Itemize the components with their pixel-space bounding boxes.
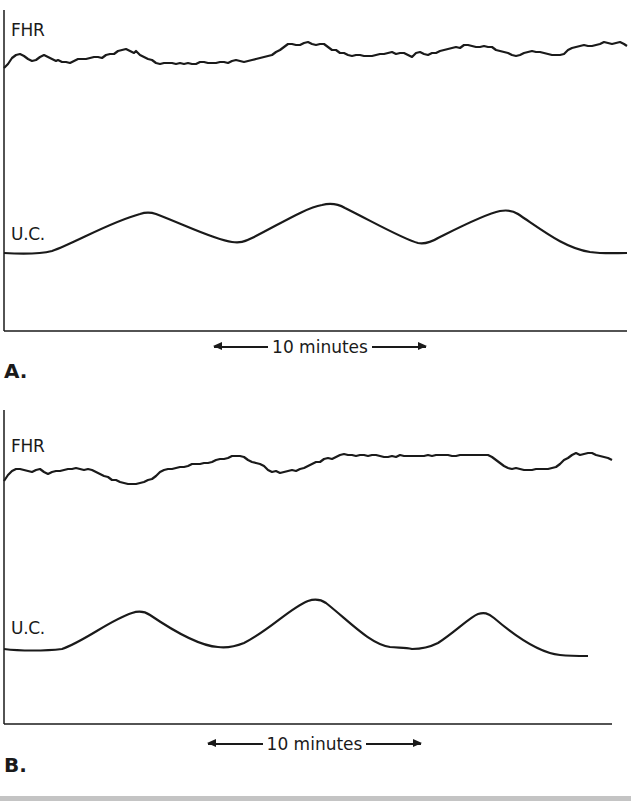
left-arrow-icon [214, 346, 268, 348]
right-arrow-icon [366, 743, 421, 745]
panel-a-fhr-trace [4, 42, 627, 68]
panel-a-scale-label: 10 minutes [268, 337, 372, 357]
panel-b-time-scale: 10 minutes [208, 734, 421, 754]
panel-b-letter: B. [4, 753, 27, 777]
panel-a-fhr-label: FHR [11, 20, 44, 40]
panel-a-time-scale: 10 minutes [214, 337, 426, 357]
panel-a-letter: A. [4, 359, 27, 383]
panel-a-axes [4, 10, 627, 331]
panel-b-uc-trace [4, 600, 588, 656]
panel-b-fhr-trace [4, 453, 612, 484]
panel-a-uc-trace [4, 204, 627, 254]
left-arrow-icon [208, 743, 263, 745]
panel-a-uc-label: U.C. [11, 224, 45, 244]
panel-b-axes [4, 410, 612, 724]
panel-b-uc-label: U.C. [11, 618, 45, 638]
panel-b-scale-label: 10 minutes [263, 734, 367, 754]
right-arrow-icon [372, 346, 426, 348]
footer-divider [0, 796, 631, 801]
panel-b-fhr-label: FHR [11, 436, 44, 456]
figure-canvas [0, 0, 631, 809]
